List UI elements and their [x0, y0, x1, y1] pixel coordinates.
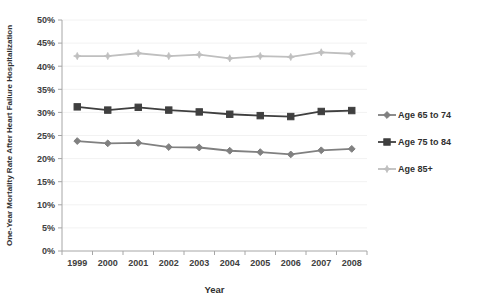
x-tick-label: 2004 [220, 258, 240, 268]
legend-item-age-75-to-84[interactable]: Age 75 to 84 [378, 137, 451, 147]
data-point-marker [165, 144, 172, 151]
y-axis-title: One-Year Mortality Rate After Heart Fail… [5, 25, 14, 246]
y-tick-label: 25% [37, 131, 55, 141]
data-point-marker [227, 111, 233, 117]
y-tick-label: 40% [37, 62, 55, 72]
legend: Age 65 to 74Age 75 to 84Age 85+ [378, 110, 451, 174]
data-point-marker [105, 107, 111, 113]
y-tick-label: 0% [42, 246, 55, 256]
data-point-marker [135, 50, 142, 57]
data-point-marker [165, 52, 172, 59]
data-point-marker [384, 139, 390, 145]
y-tick-label: 10% [37, 200, 55, 210]
y-tick-group: 0%5%10%15%20%25%30%35%40%45%50% [37, 15, 62, 256]
legend-item-label: Age 75 to 84 [398, 137, 451, 147]
series-age-65-to-74 [74, 138, 355, 158]
x-tick-label: 1999 [67, 258, 87, 268]
data-point-marker [318, 147, 325, 154]
data-point-marker [349, 107, 355, 113]
x-tick-group: 1999200020012002200320042005200620072008 [62, 251, 367, 268]
data-point-marker [104, 52, 111, 59]
data-point-marker [257, 149, 264, 156]
data-point-marker [166, 107, 172, 113]
data-point-marker [257, 52, 264, 59]
x-tick-label: 2008 [342, 258, 362, 268]
y-tick-label: 20% [37, 154, 55, 164]
series-line [77, 107, 352, 117]
data-point-marker [196, 109, 202, 115]
data-point-marker [383, 165, 390, 172]
data-point-marker [287, 53, 294, 60]
chart-container: 0%5%10%15%20%25%30%35%40%45%50% 19992000… [0, 0, 479, 298]
series-line [77, 52, 352, 58]
data-point-marker [257, 112, 263, 118]
data-point-marker [348, 50, 355, 57]
data-point-marker [287, 151, 294, 158]
data-point-marker [348, 145, 355, 152]
y-tick-label: 35% [37, 85, 55, 95]
series-group [74, 49, 356, 158]
x-tick-label: 2000 [98, 258, 118, 268]
data-point-marker [196, 51, 203, 58]
x-tick-label: 2002 [159, 258, 179, 268]
data-point-marker [384, 112, 391, 119]
data-point-marker [226, 55, 233, 62]
data-point-marker [74, 138, 81, 145]
x-tick-label: 2005 [250, 258, 270, 268]
x-axis-title: Year [204, 284, 224, 295]
series-line [77, 141, 352, 154]
legend-item-label: Age 85+ [398, 164, 433, 174]
data-point-marker [135, 139, 142, 146]
y-tick-label: 50% [37, 15, 55, 25]
data-point-marker [104, 140, 111, 147]
data-point-marker [318, 108, 324, 114]
y-tick-label: 5% [42, 223, 55, 233]
line-chart: 0%5%10%15%20%25%30%35%40%45%50% 19992000… [0, 0, 479, 298]
series-age-75-to-84 [74, 104, 355, 120]
y-tick-label: 30% [37, 108, 55, 118]
data-point-marker [288, 113, 294, 119]
x-tick-label: 2007 [311, 258, 331, 268]
data-point-marker [74, 52, 81, 59]
x-tick-label: 2006 [281, 258, 301, 268]
x-tick-label: 2001 [128, 258, 148, 268]
x-tick-label: 2003 [189, 258, 209, 268]
data-point-marker [196, 144, 203, 151]
data-point-marker [318, 49, 325, 56]
data-point-marker [135, 104, 141, 110]
data-point-marker [74, 104, 80, 110]
y-tick-label: 15% [37, 177, 55, 187]
y-tick-label: 45% [37, 38, 55, 48]
series-age-85 [74, 49, 356, 62]
legend-item-label: Age 65 to 74 [398, 110, 451, 120]
legend-item-age-85[interactable]: Age 85+ [378, 164, 433, 174]
data-point-marker [226, 147, 233, 154]
legend-item-age-65-to-74[interactable]: Age 65 to 74 [378, 110, 451, 120]
